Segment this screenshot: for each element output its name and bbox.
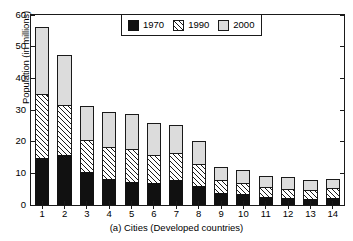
- y-tick-label: 20: [15, 135, 26, 146]
- bar-stack[interactable]: [192, 141, 206, 205]
- bar-segment-2000[interactable]: [236, 170, 250, 183]
- bar-segment-2000[interactable]: [214, 167, 228, 181]
- bar-segment-1990[interactable]: [102, 147, 116, 179]
- bar-segment-2000[interactable]: [57, 55, 71, 105]
- bar-segment-1990[interactable]: [259, 187, 273, 197]
- bar-segment-2000[interactable]: [326, 179, 340, 188]
- y-tick-label: 0: [21, 199, 26, 210]
- bar-segment-2000[interactable]: [147, 123, 161, 155]
- bar-segment-2000[interactable]: [102, 112, 116, 147]
- chart-caption: (a) Cities (Developed countries): [0, 222, 353, 233]
- x-tick-label: 14: [319, 208, 347, 219]
- bar-segment-1990[interactable]: [303, 190, 317, 199]
- bar-segment-1990[interactable]: [281, 189, 295, 199]
- bar-stack[interactable]: [102, 112, 116, 205]
- bar-segment-2000[interactable]: [80, 106, 94, 140]
- chart-legend: 197019902000: [121, 14, 262, 36]
- y-tick-label: 50: [15, 40, 26, 51]
- bar-segment-2000[interactable]: [35, 27, 49, 94]
- y-tick-label: 10: [15, 167, 26, 178]
- bar-segment-1990[interactable]: [125, 149, 139, 182]
- bar-stack[interactable]: [125, 114, 139, 206]
- legend-label: 2000: [233, 20, 254, 30]
- legend-item-1990[interactable]: 1990: [173, 20, 209, 31]
- bar-segment-2000[interactable]: [192, 141, 206, 163]
- bar-stack[interactable]: [35, 27, 49, 205]
- bar-segment-2000[interactable]: [169, 125, 183, 153]
- bar-segment-1990[interactable]: [57, 105, 71, 155]
- bar-series-group: [31, 15, 344, 205]
- y-tick-label: 40: [15, 72, 26, 83]
- bar-stack[interactable]: [57, 55, 71, 205]
- bar-segment-1990[interactable]: [326, 188, 340, 198]
- bar-segment-1990[interactable]: [80, 140, 94, 172]
- plot-area: 0102030405060 1234567891011121314: [30, 14, 345, 206]
- bar-segment-1970[interactable]: [35, 158, 49, 205]
- swatch-hatch-icon: [173, 20, 184, 31]
- swatch-black-icon: [128, 20, 139, 31]
- bar-segment-1970[interactable]: [57, 155, 71, 205]
- bar-segment-2000[interactable]: [125, 114, 139, 149]
- bar-stack[interactable]: [214, 167, 228, 205]
- swatch-gray-icon: [218, 20, 229, 31]
- legend-item-1970[interactable]: 1970: [128, 20, 164, 31]
- legend-label: 1990: [188, 20, 209, 30]
- bar-stack[interactable]: [169, 125, 183, 205]
- bar-segment-1990[interactable]: [169, 153, 183, 180]
- legend-item-2000[interactable]: 2000: [218, 20, 254, 31]
- bar-segment-2000[interactable]: [259, 176, 273, 187]
- bar-stack[interactable]: [80, 106, 94, 205]
- bar-segment-2000[interactable]: [281, 177, 295, 189]
- chart-figure: Population (in millions) 0102030405060 1…: [0, 0, 353, 241]
- bar-stack[interactable]: [236, 170, 250, 205]
- legend-label: 1970: [143, 20, 164, 30]
- bar-segment-1990[interactable]: [236, 183, 250, 195]
- bar-segment-1990[interactable]: [35, 94, 49, 158]
- y-tick-label: 30: [15, 104, 26, 115]
- bar-stack[interactable]: [147, 123, 161, 205]
- bar-segment-2000[interactable]: [303, 180, 317, 190]
- bar-segment-1990[interactable]: [192, 164, 206, 186]
- bar-segment-1990[interactable]: [214, 180, 228, 193]
- bar-segment-1990[interactable]: [147, 155, 161, 184]
- y-tick-label: 60: [15, 9, 26, 20]
